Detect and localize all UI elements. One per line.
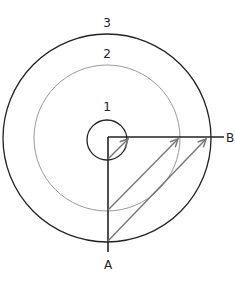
- label-b: B: [226, 131, 234, 145]
- arrow-2: [108, 139, 178, 210]
- circle-1: [87, 120, 127, 160]
- arrow-3: [108, 139, 206, 241]
- concentric-circles-diagram: 1 2 3 A B: [0, 0, 235, 302]
- label-circle-1: 1: [103, 100, 111, 114]
- label-circle-3: 3: [103, 16, 111, 30]
- label-a: A: [104, 258, 113, 272]
- label-circle-2: 2: [103, 47, 111, 61]
